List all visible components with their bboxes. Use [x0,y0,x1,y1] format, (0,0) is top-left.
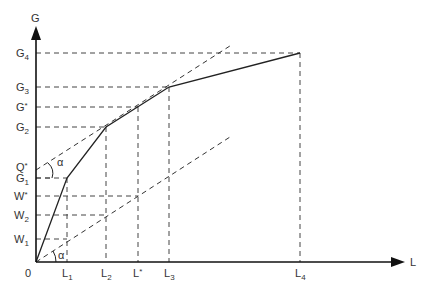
y-axis-label: G [31,12,40,24]
x-axis-arrow-icon [391,257,405,267]
x-axis-label: L [410,256,416,268]
alpha-lower-label: α [58,249,65,261]
angle-arc-upper [48,163,53,178]
lower-dashed-line [36,137,230,262]
label-w2: W2 [14,209,29,224]
label-l4: L4 [295,267,306,282]
label-lstar: L* [133,267,142,279]
y-tick-labels: G4 G3 G* G2 Q* G1 W* W2 W1 [14,47,30,248]
vertical-guides [67,53,300,262]
horizontal-guides [36,53,300,239]
origin-label: 0 [25,267,31,279]
label-l1: L1 [62,267,73,282]
production-diagram: G L 0 α α G4 G3 G* G2 Q* G1 W* W2 W1 L1 … [0,0,428,290]
label-l3: L3 [164,267,175,282]
production-curve [36,53,300,262]
label-gstar: G* [16,101,28,113]
label-g1: G1 [16,172,30,187]
label-g4: G4 [16,47,30,62]
label-g2: G2 [16,121,30,136]
alpha-upper-label: α [57,156,64,168]
label-wstar: W* [14,190,28,202]
angle-arc-lower [53,251,56,262]
label-l2: L2 [101,267,112,282]
x-tick-labels: L1 L2 L* L3 L4 [62,267,306,282]
y-axis-arrow-icon [31,26,41,40]
label-g3: G3 [16,81,30,96]
label-w1: W1 [14,233,29,248]
